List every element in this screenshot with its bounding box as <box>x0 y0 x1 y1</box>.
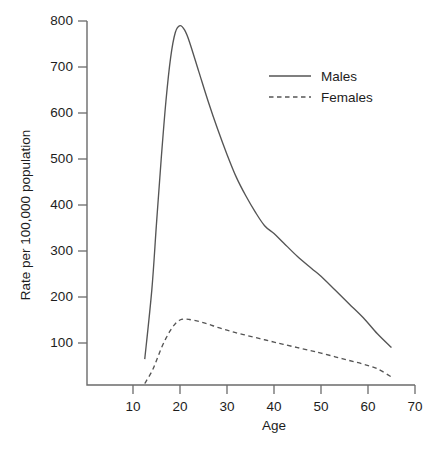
legend-label-males: Males <box>321 69 357 84</box>
x-tick-label-70: 70 <box>395 399 435 414</box>
chart-figure: 100 200 300 400 500 600 700 800 10 20 30… <box>0 0 436 455</box>
y-tick-label-200: 200 <box>29 289 73 304</box>
y-tick-label-400: 400 <box>29 197 73 212</box>
legend-label-females: Females <box>321 90 373 105</box>
y-tick-label-600: 600 <box>29 105 73 120</box>
y-tick-label-100: 100 <box>29 335 73 350</box>
y-tick-label-800: 800 <box>29 13 73 28</box>
y-tick-label-700: 700 <box>29 59 73 74</box>
x-tick-label-40: 40 <box>254 399 294 414</box>
series-line-females <box>145 319 392 383</box>
x-tick-label-20: 20 <box>160 399 200 414</box>
x-axis-title: Age <box>262 418 286 433</box>
x-tick-label-60: 60 <box>348 399 388 414</box>
y-tick-label-300: 300 <box>29 243 73 258</box>
y-tick-marks <box>78 21 87 343</box>
y-tick-label-500: 500 <box>29 151 73 166</box>
axis-lines <box>87 21 415 385</box>
x-tick-label-50: 50 <box>301 399 341 414</box>
x-tick-marks <box>133 385 415 394</box>
x-tick-label-10: 10 <box>113 399 153 414</box>
y-axis-title: Rate per 100,000 population <box>18 130 33 300</box>
x-tick-label-30: 30 <box>207 399 247 414</box>
